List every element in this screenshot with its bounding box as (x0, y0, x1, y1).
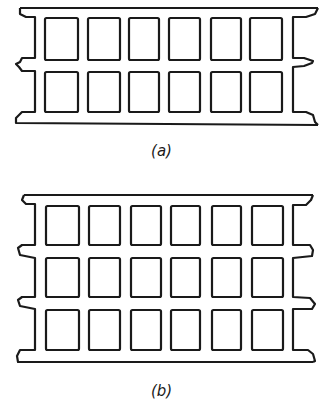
cells-row-1-a (45, 18, 282, 60)
caption-a: (a) (0, 142, 323, 160)
outline-right-a (293, 8, 318, 125)
caption-b: (b) (0, 382, 323, 400)
outline-left-a (16, 8, 318, 125)
outline-right-b (293, 195, 315, 362)
cells-row-1-b (46, 206, 283, 245)
diagram-a (0, 0, 323, 140)
outline-left-b (17, 195, 313, 362)
cells-row-2-b (46, 258, 283, 297)
cells-row-2-a (45, 72, 282, 112)
cells-row-3-b (46, 310, 283, 350)
